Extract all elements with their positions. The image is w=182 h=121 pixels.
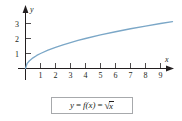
x-tick-label: 3 [69,71,73,80]
x-tick-label-group: 1 2 3 4 5 6 7 8 9 [39,71,163,80]
y-tick-label: 3 [15,20,19,29]
x-tick-label: 9 [159,71,163,80]
x-tick-label: 5 [99,71,103,80]
x-tick-label: 8 [144,71,148,80]
formula-function-notation: f(x) [83,101,96,110]
formula-equals-2: = [96,101,105,110]
y-tick-label-group: 1 2 3 [15,20,19,59]
graph-plot-area: y x 1 2 3 1 [0,0,182,92]
x-tick-label: 2 [54,71,58,80]
radicand: x [109,101,114,111]
x-tick-label: 7 [129,71,133,80]
y-tick-label: 1 [15,50,19,59]
formula-caption-box: y=f(x)=√x [51,97,133,114]
x-tick-group [41,63,161,69]
figure-container: y x 1 2 3 1 [0,0,182,121]
formula-text: y=f(x)=√x [70,101,114,111]
y-axis-label: y [29,5,34,14]
x-tick-label: 4 [84,71,88,80]
x-axis-label: x [164,55,169,64]
x-tick-label: 6 [114,71,118,80]
radical-expression: √x [105,101,115,111]
y-tick-label: 2 [15,35,19,44]
y-tick-group [26,24,32,54]
x-tick-label: 1 [39,71,43,80]
x-axis-arrow-icon [166,66,174,72]
sqrt-function-curve [26,22,173,69]
y-axis-arrow-icon [23,5,29,13]
formula-equals-1: = [74,101,83,110]
